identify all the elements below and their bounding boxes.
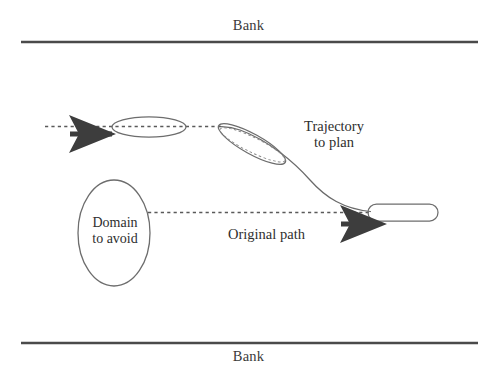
diagram-vector-layer xyxy=(0,0,497,375)
trajectory-label-line-1: Trajectory xyxy=(278,118,390,134)
bank-label-bottom: Bank xyxy=(0,348,497,364)
domain-label-line-2: to avoid xyxy=(79,231,151,247)
diagram-canvas: Bank Bank Trajectory to plan Original pa… xyxy=(0,0,497,375)
domain-to-avoid-label: Domain to avoid xyxy=(79,215,151,246)
original-path-label: Original path xyxy=(228,226,328,242)
bank-label-top: Bank xyxy=(0,17,497,33)
bank-lines-group xyxy=(21,42,478,343)
trajectory-label-line-2: to plan xyxy=(278,134,390,150)
domain-label-line-1: Domain xyxy=(79,215,151,231)
vessel-right-stadium xyxy=(368,204,438,221)
trajectory-to-plan-label: Trajectory to plan xyxy=(278,118,390,150)
